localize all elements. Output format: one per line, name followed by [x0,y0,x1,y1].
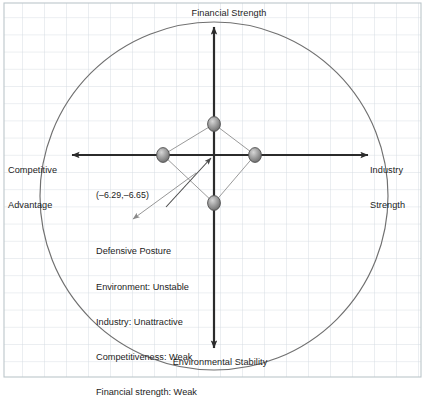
industry-strength-point [249,148,262,163]
vector-coordinate-label: (–6.29,–6.65) [96,190,149,202]
axis-label-competitive-advantage-line2: Advantage [8,200,74,212]
axis-label-financial-strength: Financial Strength [169,8,289,20]
posture-annotation-line-1: Defensive Posture [96,246,197,258]
posture-annotation-line-2: Environment: Unstable [96,282,197,294]
posture-annotation-line-3: Industry: Unattractive [96,317,197,329]
axis-label-industry-strength-line2: Strength [370,200,426,212]
competitive-advantage-point [157,148,170,163]
posture-annotation-line-5: Financial strength: Weak [96,387,197,399]
axis-label-industry-strength: Industry Strength [370,142,426,235]
axis-label-competitive-advantage: Competitive Advantage [8,142,74,235]
financial-strength-point [208,117,221,132]
axis-label-industry-strength-line1: Industry [370,165,426,177]
posture-annotation-block: Defensive Posture Environment: Unstable … [96,223,197,401]
axis-label-competitive-advantage-line1: Competitive [8,165,74,177]
space-matrix-diagram: Financial Strength Environmental Stabili… [0,0,426,401]
posture-annotation-line-4: Competitiveness: Weak [96,352,197,364]
environmental-stability-point [208,196,221,211]
